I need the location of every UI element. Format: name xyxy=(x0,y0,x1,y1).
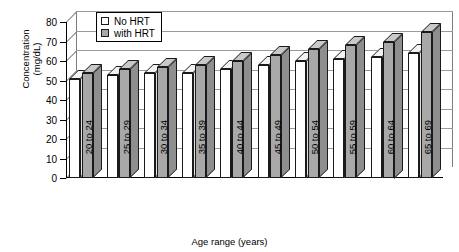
y-axis-tick-label: 30 xyxy=(46,114,57,125)
x-axis-title: Age range (years) xyxy=(0,236,459,247)
y-axis-tick-label: 40 xyxy=(46,95,57,106)
y-axis-tick xyxy=(60,120,66,121)
legend-swatch-with-hrt-icon xyxy=(101,29,109,37)
x-axis-label: 35 to 39 xyxy=(196,120,207,184)
bar xyxy=(295,61,306,178)
y-axis-tick-label: 50 xyxy=(46,75,57,86)
y-axis-tick-label: 0 xyxy=(51,173,57,184)
legend-label-no-hrt: No HRT xyxy=(114,16,150,27)
x-axis-label: 25 to 29 xyxy=(121,120,132,184)
legend-label-with-hrt: with HRT xyxy=(114,28,155,39)
bar-front-face xyxy=(371,57,382,178)
y-axis-title-line2: (mg/dL) xyxy=(31,0,42,134)
bar-front-face xyxy=(107,75,118,178)
bar-front-face xyxy=(258,65,269,178)
bar-front-face xyxy=(295,61,306,178)
y-axis-tick xyxy=(60,22,66,23)
legend-item-with-hrt: with HRT xyxy=(101,27,155,39)
bar xyxy=(258,65,269,178)
bar-side-face xyxy=(432,23,441,178)
y-axis-tick xyxy=(60,42,66,43)
y-axis-tick xyxy=(60,61,66,62)
x-axis-label: 55 to 59 xyxy=(347,120,358,184)
bar xyxy=(144,73,155,178)
legend-item-no-hrt: No HRT xyxy=(101,15,155,27)
bar xyxy=(371,57,382,178)
bar-front-face xyxy=(182,73,193,178)
y-axis-tick-label: 60 xyxy=(46,56,57,67)
bar-front-face xyxy=(144,73,155,178)
bar xyxy=(69,79,80,178)
bar xyxy=(182,73,193,178)
bar-front-face xyxy=(333,59,344,178)
bar xyxy=(107,75,118,178)
chart-legend: No HRT with HRT xyxy=(96,12,162,42)
x-axis-label: 50 to 54 xyxy=(309,120,320,184)
y-axis-tick-label: 20 xyxy=(46,134,57,145)
bar xyxy=(333,59,344,178)
x-axis-label: 65 to 69 xyxy=(422,120,433,184)
y-axis-tick xyxy=(60,100,66,101)
bar xyxy=(408,53,419,178)
y-axis-tick-label: 10 xyxy=(46,153,57,164)
y-axis-tick xyxy=(60,81,66,82)
x-axis-label: 40 to 44 xyxy=(234,120,245,184)
bar-front-face xyxy=(408,53,419,178)
y-axis-title: Concentration (mg/dL) xyxy=(20,0,42,134)
x-axis-label: 30 to 34 xyxy=(158,120,169,184)
y-axis-title-line1: Concentration xyxy=(20,29,31,88)
x-axis-label: 60 to 64 xyxy=(385,120,396,184)
y-axis-tick-label: 70 xyxy=(46,36,57,47)
y-axis-tick xyxy=(60,159,66,160)
legend-swatch-no-hrt-icon xyxy=(101,17,109,25)
bar-front-face xyxy=(69,79,80,178)
y-axis-tick-label: 80 xyxy=(46,17,57,28)
bar-side-face xyxy=(319,41,328,178)
bar-front-face xyxy=(220,69,231,178)
y-axis-tick xyxy=(60,139,66,140)
x-axis-label: 45 to 49 xyxy=(272,120,283,184)
y-axis-tick xyxy=(60,178,66,179)
bar xyxy=(220,69,231,178)
bar-side-face xyxy=(168,58,177,178)
x-axis-label: 20 to 24 xyxy=(83,120,94,184)
chart-figure: Concentration (mg/dL) 01020304050607080 … xyxy=(0,0,459,252)
